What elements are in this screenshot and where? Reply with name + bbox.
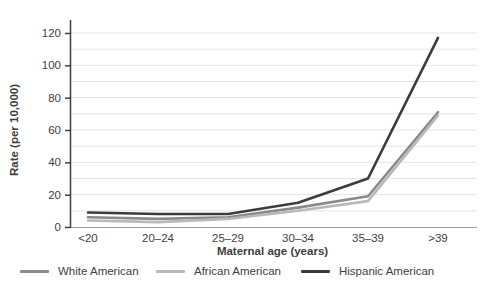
legend-line-swatch [156,270,185,273]
y-axis-title: Rate (per 10,000) [8,84,20,176]
svg-text:<20: <20 [78,232,98,244]
svg-text:25–29: 25–29 [212,232,244,244]
chart-figure: 020406080100120<2020–2425–2930–3435–39>3… [0,0,484,288]
svg-text:80: 80 [48,92,61,104]
svg-text:>39: >39 [428,232,448,244]
svg-text:60: 60 [48,124,61,136]
legend-line-swatch [20,270,49,273]
legend-line-swatch [301,270,330,273]
svg-text:40: 40 [48,156,61,168]
svg-text:100: 100 [42,59,61,71]
svg-text:120: 120 [42,27,61,39]
legend-item-white-american: White American [20,265,139,277]
legend-item-hispanic-american: Hispanic American [301,265,434,277]
legend-item-african-american: African American [156,265,281,277]
x-axis-title: Maternal age (years) [70,245,475,257]
legend-label: White American [58,265,139,277]
svg-text:20–24: 20–24 [142,232,175,244]
svg-text:20: 20 [48,189,61,201]
svg-text:35–39: 35–39 [352,232,384,244]
legend-label: Hispanic American [339,265,434,277]
line-chart: 020406080100120<2020–2425–2930–3435–39>3… [0,0,484,260]
svg-text:0: 0 [55,221,61,233]
legend-label: African American [194,265,281,277]
svg-text:30–34: 30–34 [282,232,315,244]
